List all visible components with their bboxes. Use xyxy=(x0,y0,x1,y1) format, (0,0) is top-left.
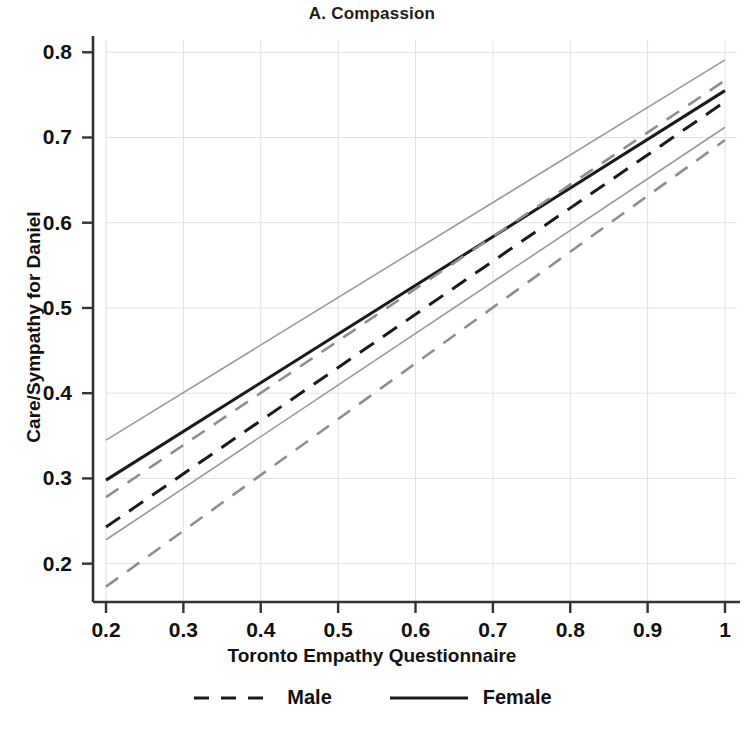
axis-ticks xyxy=(82,52,725,613)
y-axis-label: Care/Sympathy for Daniel xyxy=(23,147,45,507)
x-tick-label: 0.2 xyxy=(76,618,136,642)
x-tick-label: 0.4 xyxy=(231,618,291,642)
chart-legend: MaleFemale xyxy=(0,686,744,709)
x-axis-label: Toronto Empathy Questionnaire xyxy=(0,645,744,667)
axis-lines xyxy=(93,36,740,602)
x-tick-label: 0.7 xyxy=(463,618,523,642)
y-tick-label: 0.2 xyxy=(2,552,72,576)
legend-line-swatch xyxy=(388,692,470,704)
x-tick-label: 1 xyxy=(695,618,744,642)
legend-label: Female xyxy=(483,686,552,709)
x-tick-label: 0.6 xyxy=(386,618,446,642)
y-tick-label: 0.7 xyxy=(2,125,72,149)
x-tick-label: 0.3 xyxy=(153,618,213,642)
legend-entry-female[interactable]: Female xyxy=(388,686,552,709)
y-tick-label: 0.8 xyxy=(2,40,72,64)
figure-compassion: A. Compassion 0.20.30.40.50.60.70.8 0.20… xyxy=(0,0,744,729)
x-tick-label: 0.8 xyxy=(540,618,600,642)
legend-label: Male xyxy=(287,686,331,709)
legend-entry-male[interactable]: Male xyxy=(192,686,331,709)
x-tick-label: 0.9 xyxy=(618,618,678,642)
legend-line-swatch xyxy=(192,692,274,704)
x-tick-label: 0.5 xyxy=(308,618,368,642)
